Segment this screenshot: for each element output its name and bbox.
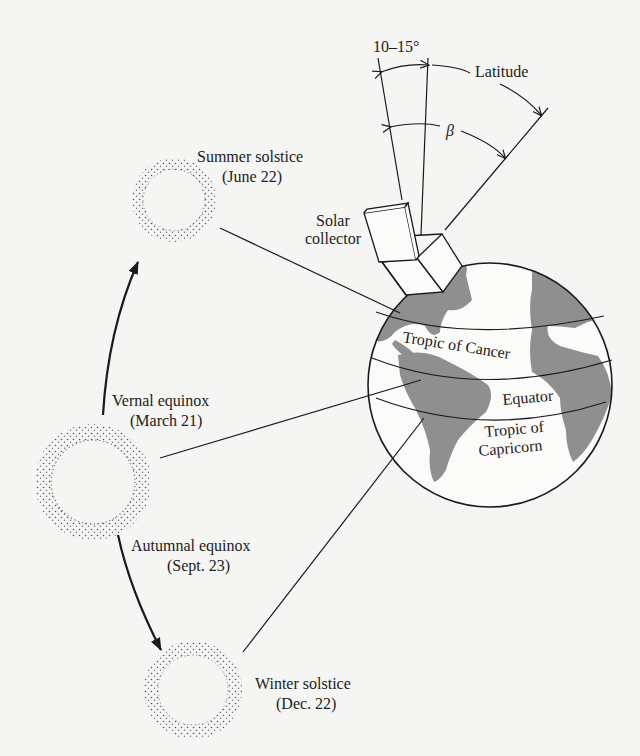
latitude-line: [445, 108, 548, 230]
winter-ray: [243, 418, 424, 652]
tilt-angle-label: 10–15°: [373, 38, 419, 55]
summer-solstice-date: (June 22): [222, 168, 282, 186]
autumnal-equinox-date: (Sept. 23): [167, 557, 230, 575]
latitude-arc-left: [432, 65, 470, 73]
solar-collector-label-2: collector: [305, 230, 362, 247]
vertical-line: [421, 58, 428, 235]
tilt-arc: [381, 65, 428, 72]
beta-arc-right: [461, 131, 505, 158]
beta-arc-left: [390, 124, 440, 127]
sun-winter: [151, 648, 235, 732]
tilted-normal-line: [378, 58, 402, 200]
winter-solstice-date: (Dec. 22): [276, 695, 336, 713]
vernal-equinox-label: Vernal equinox: [112, 392, 209, 410]
latitude-label: Latitude: [475, 63, 528, 80]
beta-label: β: [445, 122, 454, 140]
summer-solstice-label: Summer solstice: [197, 148, 303, 165]
winter-solstice-label: Winter solstice: [255, 675, 351, 692]
vernal-equinox-date: (March 21): [130, 412, 202, 430]
solar-collector: [364, 203, 462, 295]
diagram-canvas: 10–15° Latitude β Tropic of Cancer Equat…: [0, 0, 640, 756]
latitude-arc-right: [500, 84, 541, 115]
sun-equinox: [43, 432, 143, 532]
autumnal-equinox-label: Autumnal equinox: [131, 537, 251, 555]
solar-collector-label-1: Solar: [316, 212, 350, 229]
sun-summer: [138, 164, 210, 236]
diagram-svg: 10–15° Latitude β Tropic of Cancer Equat…: [0, 0, 640, 756]
